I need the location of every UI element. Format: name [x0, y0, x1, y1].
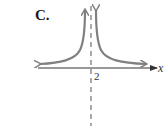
- curve-left-branch: [40, 10, 85, 64]
- curve-right-branch: [96, 10, 146, 64]
- graph: [0, 0, 168, 130]
- x-axis-label: x: [158, 61, 163, 76]
- tick-label-2: 2: [94, 70, 100, 82]
